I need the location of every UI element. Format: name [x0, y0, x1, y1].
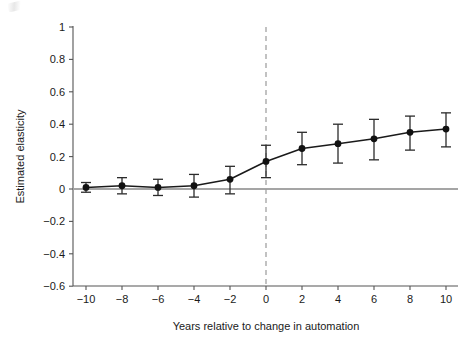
y-tick-label: 0	[59, 183, 65, 195]
x-axis-title: Years relative to change in automation	[173, 320, 360, 332]
y-tick-label: −0.2	[43, 215, 65, 227]
x-tick-label: −4	[188, 293, 201, 305]
data-point-marker	[407, 129, 414, 136]
data-point-marker	[335, 140, 342, 147]
x-tick-label: −6	[152, 293, 165, 305]
y-tick-label: −0.4	[43, 248, 65, 260]
x-tick-label: 0	[263, 293, 269, 305]
x-tick-label: 8	[407, 293, 413, 305]
data-point-marker	[263, 158, 270, 165]
y-tick-label: 0.4	[50, 118, 65, 130]
y-tick-label: −0.6	[43, 280, 65, 292]
x-tick-label: 4	[335, 293, 341, 305]
data-point-marker	[119, 182, 126, 189]
y-tick-label: 0.8	[50, 53, 65, 65]
data-point-marker	[299, 145, 306, 152]
x-tick-label: 2	[299, 293, 305, 305]
data-point-marker	[443, 126, 450, 133]
x-tick-label: −10	[77, 293, 96, 305]
x-tick-label: 10	[440, 293, 452, 305]
data-point-marker	[371, 135, 378, 142]
y-axis-title: Estimated elasticity	[14, 109, 26, 204]
data-point-marker	[155, 184, 162, 191]
y-axis: −0.6−0.4−0.200.20.40.60.81	[43, 21, 73, 292]
y-tick-label: 0.2	[50, 151, 65, 163]
elasticity-event-study-chart: −0.6−0.4−0.200.20.40.60.81 −10−8−6−4−202…	[0, 0, 466, 352]
data-point-marker	[191, 182, 198, 189]
x-tick-label: −2	[224, 293, 237, 305]
x-tick-label: 6	[371, 293, 377, 305]
y-tick-label: 0.6	[50, 86, 65, 98]
data-point-marker	[83, 184, 90, 191]
data-point-marker	[227, 176, 234, 183]
x-axis: −10−8−6−4−20246810	[73, 286, 458, 305]
x-tick-label: −8	[116, 293, 129, 305]
axis-labels: Years relative to change in automationEs…	[14, 109, 359, 332]
y-tick-label: 1	[59, 21, 65, 33]
chart-figure: −0.6−0.4−0.200.20.40.60.81 −10−8−6−4−202…	[0, 0, 466, 352]
